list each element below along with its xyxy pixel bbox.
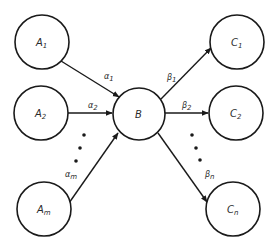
edge-label-beta-2: β2	[181, 101, 192, 112]
edge-b-cn	[158, 133, 207, 202]
edge-label-beta-n: βn	[204, 170, 215, 181]
node-cn: Cn	[206, 182, 260, 236]
node-c2: C2	[209, 86, 263, 140]
edge-label-beta-1: β1	[166, 73, 177, 84]
node-a1: A1	[15, 15, 69, 69]
node-b-label: B	[135, 109, 142, 120]
ellipsis-left	[74, 133, 86, 163]
node-c1: C1	[210, 15, 264, 69]
network-diagram: A1 A2 Am B C1 C2 Cn α1 α2 αm β1 β2 βn	[0, 0, 276, 250]
node-am: Am	[17, 182, 71, 236]
ellipsis-right	[190, 133, 202, 162]
edge-label-alpha-1: α1	[104, 72, 114, 83]
node-a2: A2	[14, 86, 68, 140]
node-b: B	[113, 88, 165, 140]
diagram-canvas: A1 A2 Am B C1 C2 Cn α1 α2 αm β1 β2 βn	[0, 0, 276, 250]
edge-am-b	[69, 133, 118, 203]
edge-label-alpha-m: αm	[65, 170, 77, 181]
edge-label-alpha-2: α2	[88, 101, 98, 112]
